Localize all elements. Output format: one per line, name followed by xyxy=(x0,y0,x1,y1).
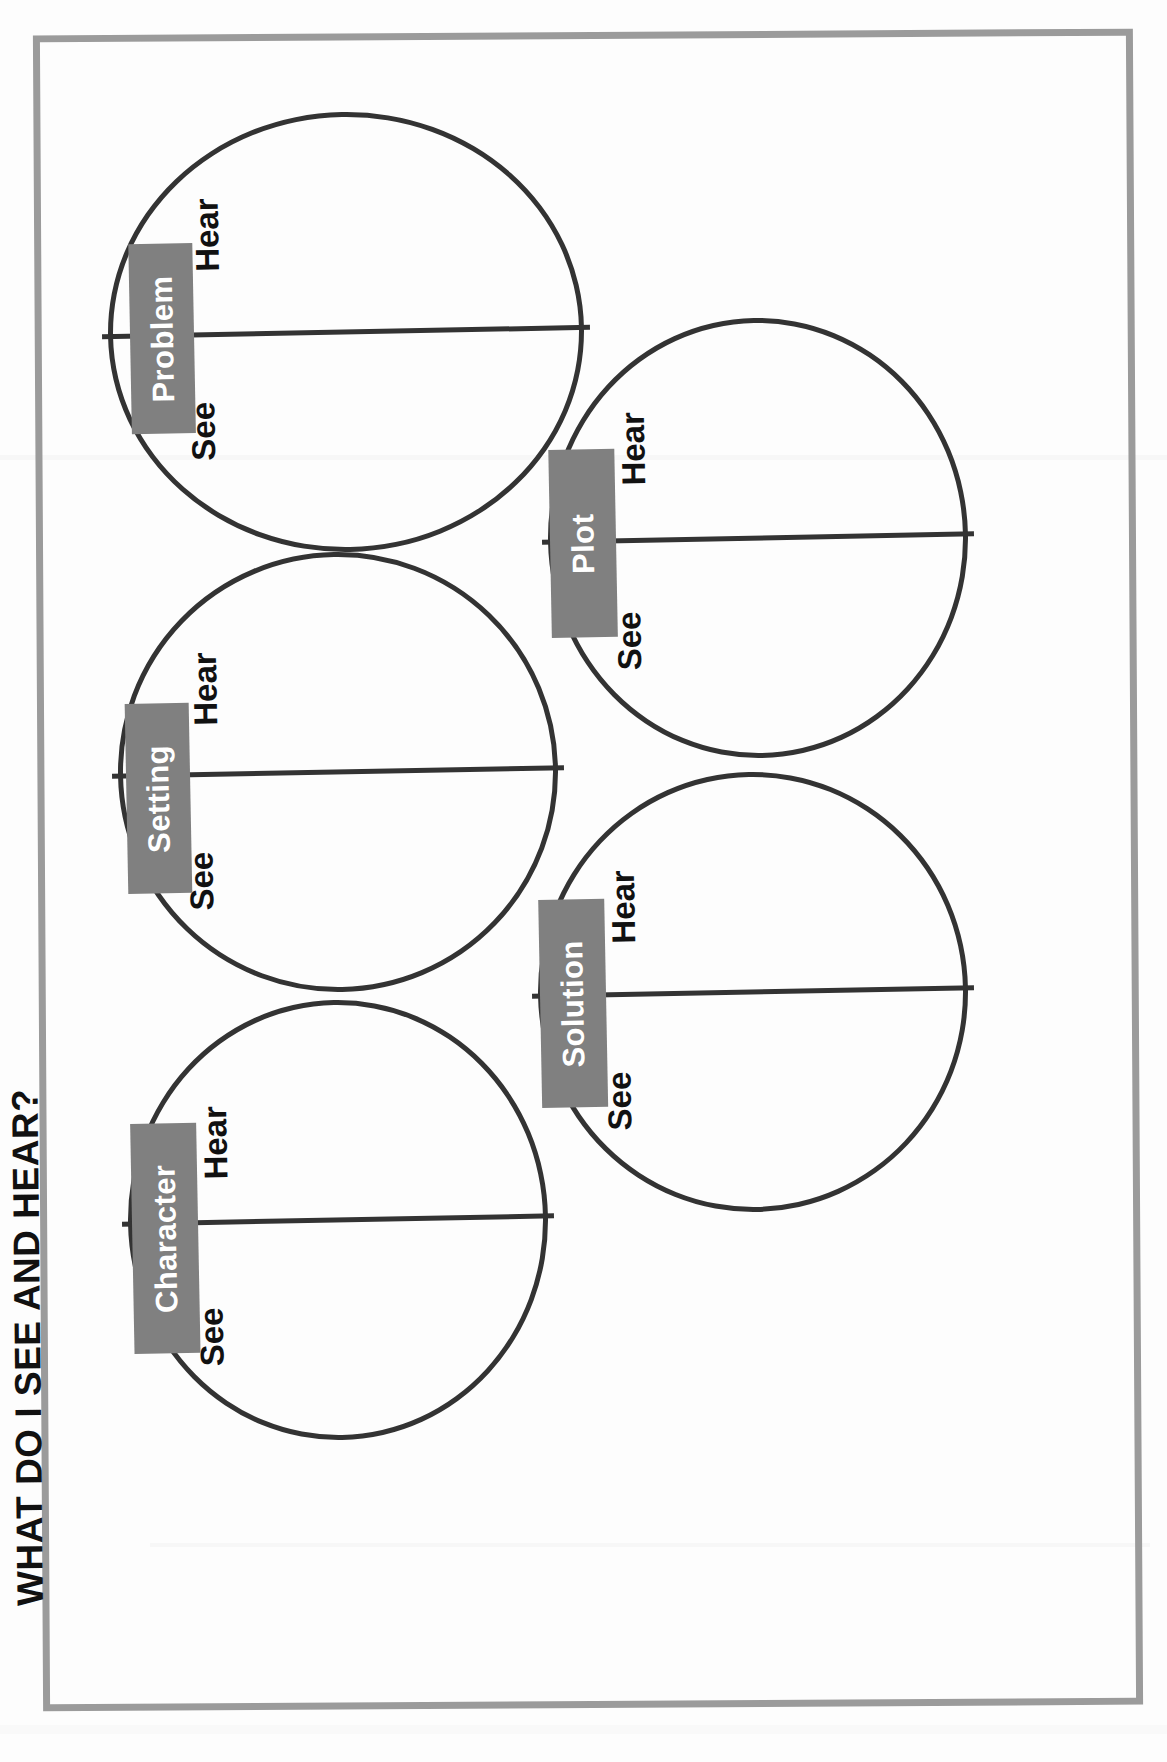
worksheet-title: WHAT DO I SEE AND HEAR? xyxy=(4,1046,52,1606)
category-chip-label-solution: Solution xyxy=(556,940,589,1068)
organizer-circle-plot[interactable]: Hear See Plot xyxy=(544,314,972,762)
organizer-circle-character[interactable]: Hear See Character xyxy=(124,996,552,1444)
category-chip-label-character: Character xyxy=(148,1164,182,1313)
organizer-circle-setting[interactable]: Hear See Setting xyxy=(114,548,562,996)
category-chip-label-plot: Plot xyxy=(567,513,599,574)
category-chip-plot[interactable]: Plot xyxy=(548,449,618,638)
half-label-hear-plot: Hear xyxy=(616,412,650,486)
organizer-circle-problem[interactable]: Hear See Problem xyxy=(104,107,588,556)
category-chip-problem[interactable]: Problem xyxy=(128,243,196,434)
category-chip-label-setting: Setting xyxy=(142,744,175,852)
category-chip-label-problem: Problem xyxy=(145,275,178,402)
half-label-hear-problem: Hear xyxy=(190,198,224,272)
category-chip-setting[interactable]: Setting xyxy=(125,703,193,894)
category-chip-character[interactable]: Character xyxy=(130,1123,200,1354)
half-label-hear-setting: Hear xyxy=(188,652,222,726)
category-chip-solution[interactable]: Solution xyxy=(538,899,608,1108)
organizer-circle-solution[interactable]: Hear See Solution xyxy=(534,768,972,1216)
half-label-hear-character: Hear xyxy=(198,1106,232,1180)
half-label-hear-solution: Hear xyxy=(606,870,640,944)
